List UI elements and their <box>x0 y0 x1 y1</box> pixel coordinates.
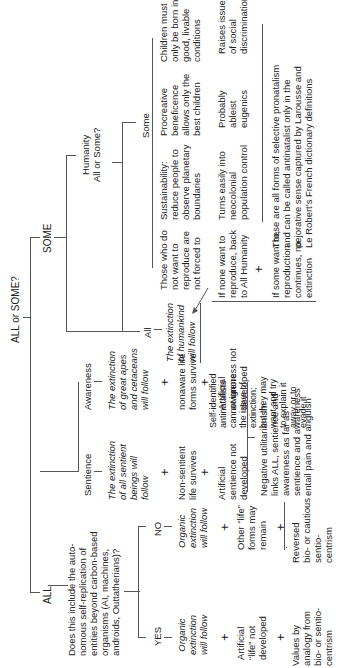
self-identified-note: Self-identified antinatalists cannot ign… <box>208 373 308 428</box>
option-2: Sustainability: reduce people to observe… <box>158 144 202 220</box>
nu-link <box>284 502 285 550</box>
plus-icon: + <box>218 633 231 641</box>
if-none: If none want to reproduce, back to All H… <box>216 230 249 298</box>
yes-item-3: Values by analogy from bio- or sentio- c… <box>290 608 334 666</box>
some-connector <box>66 156 67 332</box>
arrow-icon <box>190 286 210 316</box>
yes-item-2: Artificial “life” not developed <box>235 616 268 660</box>
yes-label: YES <box>152 627 163 646</box>
option-3: Procreative beneficence allows only the … <box>158 74 202 136</box>
plus-icon: + <box>158 468 171 476</box>
awareness-item-1: The extinction of great apes and cetacea… <box>106 348 150 410</box>
option-4-sub: Raises issues of social discrimination <box>216 0 249 54</box>
yes-no-connector <box>138 526 139 638</box>
sentience-item-1: The extinction of all sentient beings wi… <box>106 441 150 500</box>
sentience-item-3: Artificial sentience not developed <box>216 443 249 500</box>
sentience-item-2: Non-sentient life survives <box>176 446 198 500</box>
no-label: NO <box>152 522 163 536</box>
option-4: Children must only be born into good, li… <box>158 0 202 62</box>
sent-aware-connector <box>78 382 79 472</box>
all-label: ALL <box>42 586 53 604</box>
root-stem <box>23 317 31 318</box>
plus-icon: + <box>274 633 287 641</box>
plus-icon: + <box>274 523 287 531</box>
options-connector <box>152 38 153 268</box>
plus-icon: + <box>218 523 231 531</box>
plus-icon: + <box>198 468 211 476</box>
humanity-label: Humanity All or Some? <box>80 128 102 182</box>
option-3-sub: Probably ableist eugenics <box>216 90 249 128</box>
all-question: Does this include the auto- nomous self-… <box>66 531 121 656</box>
option-1: Those who do not want to reproduce are n… <box>158 230 202 290</box>
all-stem <box>48 585 68 586</box>
sentience-label: Sentience <box>82 454 93 496</box>
option-2-sub: Turns easily into neocolonial population… <box>216 145 249 220</box>
awareness-label: Awareness <box>82 363 93 410</box>
all-branch-label: All <box>142 327 153 338</box>
if-bracket <box>212 301 316 302</box>
root-connector <box>30 238 31 593</box>
no-item-1: Organic extinction will follow <box>176 508 209 548</box>
no-item-3: Reversed bio- or cautious sentio- centri… <box>290 498 334 563</box>
summary-note: These are all forms of selective pronata… <box>270 65 314 248</box>
plus-icon: + <box>252 265 265 273</box>
some-branch-label: Some <box>140 113 151 138</box>
diagram-canvas: ALL or SOME? ALL Does this include the a… <box>0 0 345 668</box>
all-drop <box>30 592 40 593</box>
no-item-2: Other “life” forms may remain <box>235 505 268 550</box>
yes-item-1: Organic extinction will follow <box>176 610 209 660</box>
some-drop <box>30 237 40 238</box>
plus-icon: + <box>158 378 171 386</box>
summary-bracket <box>262 24 263 222</box>
root-label: ALL or SOME? <box>10 276 21 343</box>
some-label: SOME <box>42 224 53 253</box>
